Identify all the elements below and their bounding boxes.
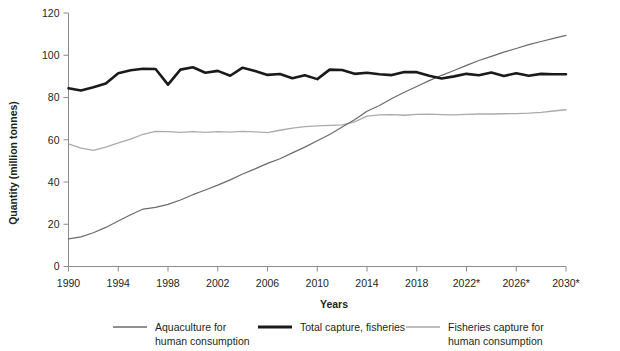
legend-label-2: Fisheries capture for bbox=[448, 321, 544, 333]
y-tick-label: 20 bbox=[48, 218, 60, 230]
chart-container: Quantity (million tonnes) 02040608010012… bbox=[0, 0, 620, 351]
series-line-1 bbox=[69, 67, 567, 90]
x-tick-label: 2002 bbox=[206, 277, 230, 289]
x-tick-label: 1990 bbox=[57, 277, 81, 289]
x-tick-label: 2006 bbox=[256, 277, 280, 289]
y-tick-label: 100 bbox=[42, 49, 60, 61]
x-tick-label: 2010 bbox=[306, 277, 330, 289]
series-group bbox=[69, 35, 567, 238]
x-axis-title-text: Years bbox=[320, 298, 348, 310]
x-tick-label: 1998 bbox=[156, 277, 180, 289]
legend-label-2-line2: human consumption bbox=[448, 335, 543, 347]
series-line-0 bbox=[69, 35, 567, 238]
y-tick-label: 60 bbox=[48, 134, 60, 146]
x-tick-label: 2022* bbox=[453, 277, 480, 289]
x-axis-ticks: 199019941998200220062010201420182022*202… bbox=[57, 267, 580, 289]
x-tick-label: 1994 bbox=[107, 277, 131, 289]
y-axis-title: Quantity (million tonnes) bbox=[7, 101, 19, 225]
line-chart: Quantity (million tonnes) 02040608010012… bbox=[0, 0, 620, 351]
x-tick-label: 2026* bbox=[503, 277, 530, 289]
x-tick-label: 2030* bbox=[552, 277, 579, 289]
y-tick-label: 40 bbox=[48, 176, 60, 188]
y-axis-ticks: 020406080100120 bbox=[42, 7, 69, 273]
x-tick-label: 2018 bbox=[405, 277, 429, 289]
y-tick-label: 120 bbox=[42, 7, 60, 19]
legend-label-0-line2: human consumption bbox=[155, 335, 250, 347]
y-axis-title-text: Quantity (million tonnes) bbox=[7, 101, 19, 225]
y-tick-label: 80 bbox=[48, 91, 60, 103]
x-tick-label: 2014 bbox=[355, 277, 379, 289]
chart-legend: Aquaculture forhuman consumptionTotal ca… bbox=[113, 321, 544, 347]
legend-label-1: Total capture, fisheries bbox=[300, 321, 405, 333]
legend-label-0: Aquaculture for bbox=[155, 321, 227, 333]
y-tick-label: 0 bbox=[54, 260, 60, 272]
series-line-2 bbox=[69, 110, 567, 151]
